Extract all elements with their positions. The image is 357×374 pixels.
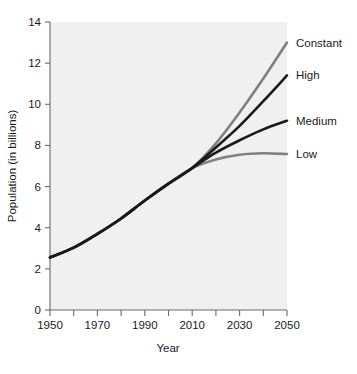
series-label-low: Low [296, 148, 318, 160]
y-tick-label: 4 [35, 222, 42, 234]
plot-background [50, 22, 287, 310]
x-tick-label: 1970 [85, 319, 111, 331]
y-tick-label: 0 [35, 304, 41, 316]
series-label-medium: Medium [296, 115, 337, 127]
population-projection-chart: 02468101214 195019701990201020302050 Con… [0, 0, 357, 374]
x-tick-label: 2030 [227, 319, 253, 331]
y-tick-label: 2 [35, 263, 41, 275]
series-label-constant: Constant [296, 37, 343, 49]
x-axis-tick-group [50, 310, 287, 316]
y-axis-tick-group [45, 22, 50, 310]
x-axis-title: Year [156, 342, 179, 354]
y-tick-label: 8 [35, 139, 41, 151]
x-tick-label: 1950 [37, 319, 63, 331]
y-axis-title: Population (in billions) [6, 110, 18, 223]
x-tick-label: 1990 [132, 319, 158, 331]
series-end-labels-group: ConstantHighMediumLow [296, 37, 343, 160]
x-axis-tick-labels: 195019701990201020302050 [37, 319, 300, 331]
y-tick-label: 14 [28, 16, 41, 28]
series-label-high: High [296, 69, 320, 81]
y-axis-tick-labels: 02468101214 [28, 16, 41, 316]
x-tick-label: 2050 [274, 319, 300, 331]
y-tick-label: 10 [28, 98, 41, 110]
y-tick-label: 12 [28, 57, 41, 69]
y-tick-label: 6 [35, 181, 41, 193]
chart-canvas: 02468101214 195019701990201020302050 Con… [0, 0, 357, 374]
x-tick-label: 2010 [179, 319, 205, 331]
